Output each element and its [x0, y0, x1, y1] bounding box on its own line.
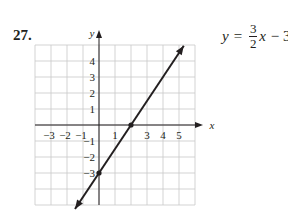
y-axis-label: y: [89, 27, 95, 39]
y-axis-arrow-icon: [96, 30, 102, 38]
y-tick-label: −2: [83, 151, 95, 163]
arrowhead-down-icon: [75, 200, 83, 209]
coordinate-graph: xy−3−2−113454321−1−2−3: [0, 0, 288, 212]
y-tick-label: −3: [83, 167, 95, 179]
x-axis-label: x: [209, 119, 215, 131]
graph-point: [128, 122, 133, 127]
x-tick-label: 4: [160, 129, 166, 141]
x-tick-label: −3: [43, 129, 55, 141]
y-tick-label: 3: [90, 71, 96, 83]
x-tick-label: 1: [112, 129, 118, 141]
y-tick-label: −1: [83, 135, 95, 147]
x-tick-label: 5: [176, 129, 182, 141]
tick-labels: xy−3−2−113454321−1−2−3: [43, 27, 214, 179]
graph-point: [96, 170, 101, 175]
y-tick-label: 2: [90, 87, 96, 99]
x-tick-label: 3: [144, 129, 150, 141]
arrowhead-up-icon: [176, 46, 184, 55]
y-tick-label: 4: [90, 55, 96, 67]
x-axis-arrow-icon: [195, 122, 203, 128]
x-tick-label: −2: [59, 129, 71, 141]
y-tick-label: 1: [90, 103, 96, 115]
